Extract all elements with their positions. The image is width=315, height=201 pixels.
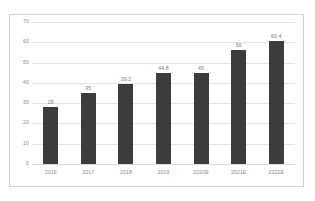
bar-value-label: 35 [85, 86, 91, 91]
gridline [32, 164, 295, 165]
y-axis-tick-label: 0 [26, 161, 29, 166]
x-axis-tick-label: 2018 [107, 166, 145, 175]
chart-plot-frame: 010203040506070 283539.244.8455660.4 201… [9, 14, 304, 187]
bar-rect[interactable] [194, 73, 209, 164]
y-axis: 010203040506070 [10, 15, 32, 186]
bars-layer: 283539.244.8455660.4 [32, 22, 295, 164]
bar-rect[interactable] [81, 93, 96, 164]
bar-rect[interactable] [43, 107, 58, 164]
y-axis-tick-label: 70 [23, 19, 29, 24]
y-axis-tick-label: 10 [23, 141, 29, 146]
y-axis-tick-label: 50 [23, 60, 29, 65]
x-axis-tick-label: 2016 [32, 166, 70, 175]
bar-rect[interactable] [269, 41, 284, 164]
bar-value-label: 39.2 [121, 77, 132, 82]
bar-rect[interactable] [156, 73, 171, 164]
bar-group[interactable]: 56 [220, 22, 258, 164]
bar-chart-figure: 010203040506070 283539.244.8455660.4 201… [0, 0, 315, 201]
x-axis-tick-label: 2017 [70, 166, 108, 175]
bar-value-label: 56 [236, 43, 242, 48]
bar-value-label: 60.4 [271, 34, 282, 39]
x-axis-tick-label: 2020E [182, 166, 220, 175]
x-axis: 20162017201820192020E2021E2022E [32, 166, 295, 182]
y-axis-tick-label: 60 [23, 40, 29, 45]
x-axis-tick-label: 2021E [220, 166, 258, 175]
bar-group[interactable]: 28 [32, 22, 70, 164]
bar-group[interactable]: 39.2 [107, 22, 145, 164]
plot-area: 283539.244.8455660.4 [32, 22, 295, 164]
y-axis-tick-label: 30 [23, 101, 29, 106]
y-axis-tick-label: 20 [23, 121, 29, 126]
bar-group[interactable]: 35 [70, 22, 108, 164]
x-axis-tick-label: 2019 [145, 166, 183, 175]
bar-rect[interactable] [118, 84, 133, 164]
y-axis-tick-label: 40 [23, 80, 29, 85]
bar-group[interactable]: 44.8 [145, 22, 183, 164]
bar-group[interactable]: 60.4 [257, 22, 295, 164]
x-axis-tick-label: 2022E [257, 166, 295, 175]
bar-value-label: 45 [198, 66, 204, 71]
bar-value-label: 28 [48, 100, 54, 105]
bar-group[interactable]: 45 [182, 22, 220, 164]
bar-rect[interactable] [231, 50, 246, 164]
bar-value-label: 44.8 [158, 66, 169, 71]
